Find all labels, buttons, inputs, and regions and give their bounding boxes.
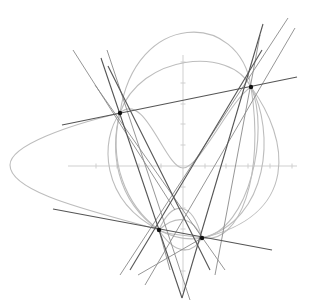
base-point-p2	[249, 85, 253, 89]
base-point-p4	[200, 236, 204, 240]
base-point-p1	[118, 111, 122, 115]
conic-diagram-canvas	[0, 0, 310, 307]
conic-diagram	[0, 0, 310, 307]
base-point-p3	[157, 228, 161, 232]
